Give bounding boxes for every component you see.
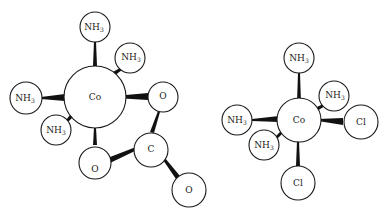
atom-nh3-top: NH3 xyxy=(284,43,314,73)
atom-nh3-left: NH3 xyxy=(222,105,252,135)
svg-text:O: O xyxy=(185,185,192,195)
molecule-right: Co NH3 NH3 NH3 NH3 Cl Cl xyxy=(222,43,378,200)
svg-text:Co: Co xyxy=(89,92,101,102)
svg-text:Co: Co xyxy=(293,115,305,125)
bond-co-cl-right xyxy=(318,118,343,125)
atom-c-carbonate: C xyxy=(134,133,168,167)
atom-o-right: O xyxy=(148,82,178,112)
atom-nh3-top: NH3 xyxy=(80,12,110,42)
atom-o-bottom: O xyxy=(79,147,111,179)
svg-text:O: O xyxy=(159,91,166,101)
svg-text:Cl: Cl xyxy=(356,117,366,127)
bond-co-cl-bottom xyxy=(296,141,300,166)
molecule-left: Co NH3 NH3 NH3 NH3 O O C xyxy=(10,12,206,207)
svg-text:Cl: Cl xyxy=(293,178,303,188)
bond-co-nh3-left xyxy=(41,94,65,101)
svg-text:C: C xyxy=(148,144,155,154)
atom-cl-bottom: Cl xyxy=(281,166,315,200)
atom-nh3-lower-left: NH3 xyxy=(41,115,71,145)
atom-co-center: Co xyxy=(277,98,321,142)
atom-nh3-left: NH3 xyxy=(10,82,42,114)
molecule-diagram: Co NH3 NH3 NH3 NH3 O O C xyxy=(0,0,384,212)
svg-text:O: O xyxy=(91,164,98,174)
bond-co-nh3-top xyxy=(93,41,97,66)
atom-nh3-upper-right: NH3 xyxy=(115,43,145,73)
atom-cl-right: Cl xyxy=(344,105,378,139)
bond-o-c-top xyxy=(150,111,160,133)
bond-c-o-terminal xyxy=(163,158,180,179)
bond-co-nh3-left xyxy=(252,116,279,122)
atom-o-terminal: O xyxy=(172,173,206,207)
bond-o-c-bottom xyxy=(110,147,137,163)
atom-co-center: Co xyxy=(64,66,126,128)
bond-co-o-bottom xyxy=(93,128,97,145)
atom-nh3-lower-left: NH3 xyxy=(249,130,279,160)
atom-nh3-upper-right: NH3 xyxy=(319,81,349,111)
